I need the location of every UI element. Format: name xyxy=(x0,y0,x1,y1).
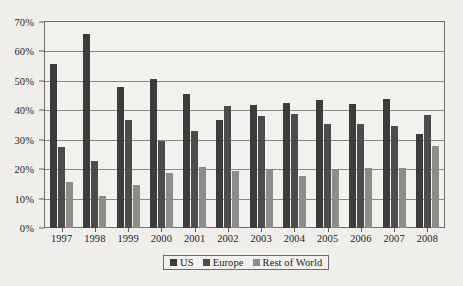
bar-group xyxy=(245,22,278,228)
bar xyxy=(383,99,390,228)
bar-group xyxy=(178,22,211,228)
x-axis-tick xyxy=(328,228,329,232)
bar xyxy=(158,141,165,228)
y-axis-tick-label: 40% xyxy=(14,105,34,116)
bar xyxy=(91,161,98,228)
legend-label: US xyxy=(180,257,194,268)
x-axis-tick xyxy=(62,228,63,232)
x-axis-tick xyxy=(228,228,229,232)
x-axis-tick-label: 2005 xyxy=(317,233,338,244)
y-axis-tick-label: 70% xyxy=(14,17,34,28)
x-axis-tick-label: 2007 xyxy=(383,233,404,244)
x-axis-tick-label: 1998 xyxy=(84,233,105,244)
bar xyxy=(332,170,339,228)
legend-swatch-icon xyxy=(253,259,260,266)
bar-group xyxy=(45,22,78,228)
bar-chart: 0%10%20%30%40%50%60%70% 1997199819992000… xyxy=(0,0,463,286)
y-axis-tick-label: 60% xyxy=(14,46,34,57)
y-axis-tick-label: 30% xyxy=(14,134,34,145)
bar xyxy=(424,115,431,228)
bar xyxy=(133,185,140,228)
bar xyxy=(266,170,273,228)
bar-group xyxy=(78,22,111,228)
legend-label: Rest of World xyxy=(263,257,323,268)
x-axis-tick xyxy=(161,228,162,232)
bar xyxy=(399,168,406,228)
bar xyxy=(316,100,323,228)
x-axis-tick xyxy=(195,228,196,232)
x-axis-tick xyxy=(361,228,362,232)
bar xyxy=(391,126,398,228)
y-axis-tick-label: 50% xyxy=(14,75,34,86)
bar-group xyxy=(145,22,178,228)
bar xyxy=(199,167,206,228)
bar xyxy=(150,79,157,228)
bar xyxy=(191,131,198,228)
legend-item: Rest of World xyxy=(253,257,323,268)
x-axis-tick-label: 2002 xyxy=(217,233,238,244)
bar xyxy=(166,173,173,228)
y-axis-tick-label: 10% xyxy=(14,193,34,204)
x-axis-tick-label: 2008 xyxy=(417,233,438,244)
bar xyxy=(357,124,364,228)
bar xyxy=(50,64,57,228)
bar-group xyxy=(278,22,311,228)
legend-label: Europe xyxy=(213,257,244,268)
bar xyxy=(299,176,306,228)
x-axis-tick xyxy=(261,228,262,232)
y-axis-tick-label: 20% xyxy=(14,164,34,175)
bar xyxy=(99,196,106,228)
x-axis-tick-label: 2001 xyxy=(184,233,205,244)
bar xyxy=(283,103,290,228)
bar xyxy=(416,134,423,228)
bar xyxy=(66,182,73,228)
bar xyxy=(324,124,331,228)
bar-group xyxy=(344,22,377,228)
bar xyxy=(232,171,239,228)
legend-swatch-icon xyxy=(170,259,177,266)
bar xyxy=(125,120,132,228)
bar xyxy=(58,147,65,228)
x-axis-tick xyxy=(128,228,129,232)
bar xyxy=(291,114,298,228)
chart-legend: USEuropeRest of World xyxy=(163,255,329,270)
bars-layer xyxy=(45,22,444,228)
x-axis-tick-label: 2004 xyxy=(284,233,305,244)
x-axis: 1997199819992000200120022003200420052006… xyxy=(45,233,444,249)
bar xyxy=(216,120,223,228)
bar xyxy=(183,94,190,228)
bar xyxy=(224,106,231,228)
bar-group xyxy=(378,22,411,228)
x-axis-tick xyxy=(394,228,395,232)
x-axis-tick-label: 2006 xyxy=(350,233,371,244)
legend-item: US xyxy=(170,257,194,268)
x-axis-tick xyxy=(294,228,295,232)
bar-group xyxy=(112,22,145,228)
legend-swatch-icon xyxy=(203,259,210,266)
bar xyxy=(258,116,265,228)
bar xyxy=(349,104,356,228)
x-axis-tick xyxy=(95,228,96,232)
x-axis-tick-label: 1999 xyxy=(117,233,138,244)
bar xyxy=(432,146,439,228)
x-axis-tick xyxy=(427,228,428,232)
x-axis-tick-label: 1997 xyxy=(51,233,72,244)
bar xyxy=(250,105,257,228)
legend-item: Europe xyxy=(203,257,244,268)
bar-group xyxy=(411,22,444,228)
y-axis-tick-label: 0% xyxy=(20,223,34,234)
y-axis: 0%10%20%30%40%50%60%70% xyxy=(0,21,40,228)
x-axis-tick-label: 2003 xyxy=(250,233,271,244)
bar xyxy=(365,168,372,228)
bar xyxy=(83,34,90,228)
bar-group xyxy=(311,22,344,228)
bar xyxy=(117,87,124,228)
bar-group xyxy=(211,22,244,228)
x-axis-tick-label: 2000 xyxy=(151,233,172,244)
